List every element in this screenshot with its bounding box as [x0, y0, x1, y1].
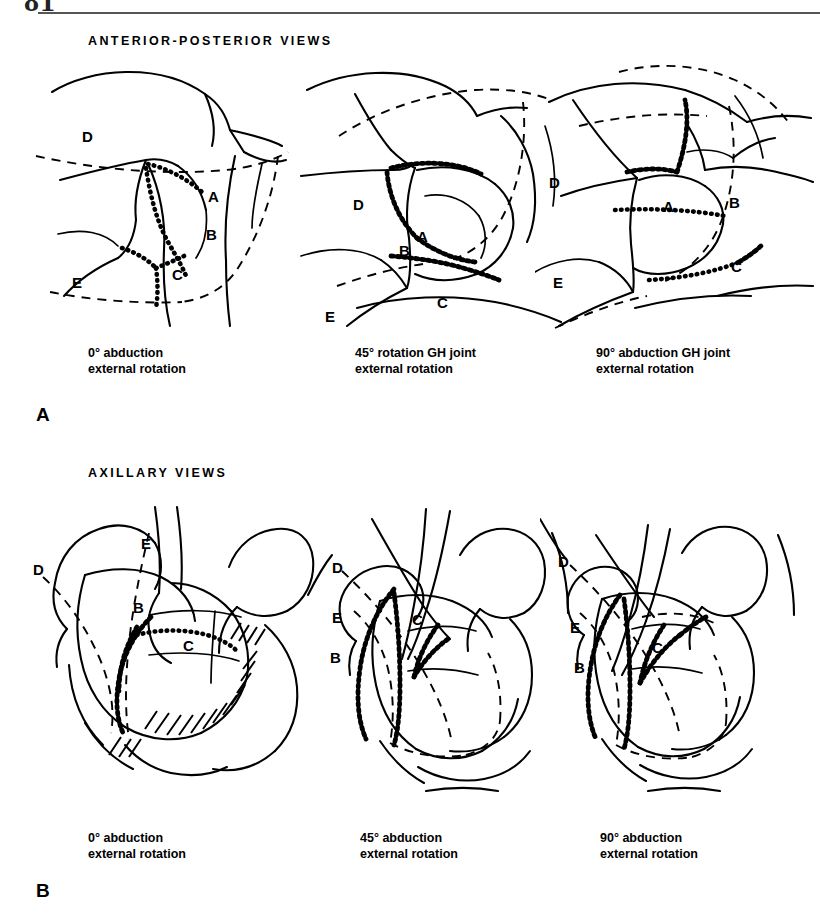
- label-C: C: [731, 258, 742, 275]
- running-head: 81: [0, 0, 820, 18]
- figure-axillary-45-degrees: D E C B: [300, 505, 570, 795]
- caption-axillary-0-degrees: 0° abduction external rotation: [88, 830, 186, 862]
- section-heading-axillary: AXILLARY VIEWS: [88, 466, 227, 480]
- caption-axillary-90-degrees: 90° abduction external rotation: [600, 830, 698, 862]
- ap-3-bone-outlines: [535, 83, 813, 326]
- label-B: B: [330, 649, 341, 666]
- caption-line-2: external rotation: [596, 361, 730, 377]
- caption-line-1: 45° rotation GH joint: [355, 346, 476, 360]
- label-B: B: [574, 659, 585, 676]
- label-D: D: [549, 174, 560, 191]
- ap-1-bone-outlines: [52, 72, 286, 326]
- label-B: B: [399, 242, 410, 259]
- figure-ap-45-degrees: D A B C E: [295, 60, 565, 330]
- label-B: B: [729, 194, 740, 211]
- label-D: D: [332, 559, 343, 576]
- label-B: B: [133, 599, 144, 616]
- label-D: D: [82, 128, 93, 145]
- label-C: C: [652, 639, 663, 656]
- caption-ap-90-degrees: 90° abduction GH joint external rotation: [596, 345, 730, 377]
- label-C: C: [412, 611, 423, 628]
- figure-axillary-90-degrees: D E C B: [540, 505, 815, 795]
- label-C: C: [183, 637, 194, 654]
- figure-axillary-0-degrees: D E B C: [25, 505, 315, 795]
- ax-1-labels: D E B C: [33, 535, 194, 654]
- label-D: D: [353, 196, 364, 213]
- label-D: D: [33, 561, 44, 578]
- caption-line-1: 0° abduction: [88, 831, 163, 845]
- ap-1-labels: D A B C E: [72, 128, 219, 291]
- label-D: D: [558, 553, 569, 570]
- label-A: A: [417, 228, 428, 245]
- caption-line-2: external rotation: [360, 846, 458, 862]
- label-E: E: [141, 535, 151, 552]
- caption-line-1: 0° abduction: [88, 346, 163, 360]
- ap-2-reference-lines: [337, 89, 551, 286]
- label-A: A: [663, 198, 674, 215]
- figure-ap-0-degrees: D A B C E: [30, 60, 300, 330]
- label-C: C: [437, 294, 448, 311]
- ax-2-measurement-traces: [358, 589, 448, 745]
- label-E: E: [325, 308, 335, 325]
- label-B: B: [206, 226, 217, 243]
- caption-line-1: 90° abduction: [600, 831, 682, 845]
- part-label-a: A: [36, 404, 50, 426]
- figure-ap-90-degrees: D A B C E: [535, 60, 815, 330]
- label-E: E: [553, 274, 563, 291]
- ax-3-bone-outlines: [540, 519, 794, 791]
- caption-line-1: 90° abduction GH joint: [596, 346, 730, 360]
- caption-line-2: external rotation: [88, 361, 186, 377]
- part-label-b: B: [36, 880, 50, 902]
- caption-line-1: 45° abduction: [360, 831, 442, 845]
- ap-1-measurement-traces: [122, 164, 202, 308]
- page-number: 81: [24, 0, 56, 18]
- header-rule: [38, 12, 820, 14]
- caption-line-2: external rotation: [88, 846, 186, 862]
- caption-ap-0-degrees: 0° abduction external rotation: [88, 345, 186, 377]
- section-heading-anterior-posterior: ANTERIOR-POSTERIOR VIEWS: [88, 34, 332, 48]
- caption-axillary-45-degrees: 45° abduction external rotation: [360, 830, 458, 862]
- caption-line-2: external rotation: [600, 846, 698, 862]
- ap-2-bone-outlines: [301, 73, 561, 326]
- label-E: E: [332, 609, 342, 626]
- label-E: E: [72, 274, 82, 291]
- label-A: A: [208, 188, 219, 205]
- label-C: C: [172, 266, 183, 283]
- caption-line-2: external rotation: [355, 361, 476, 377]
- label-E: E: [570, 619, 580, 636]
- caption-ap-45-degrees: 45° rotation GH joint external rotation: [355, 345, 476, 377]
